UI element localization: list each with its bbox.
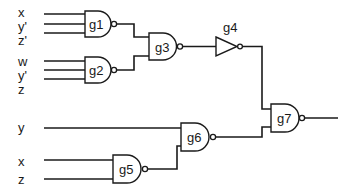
- inversion-bubble-g1: [111, 21, 116, 26]
- wire-g4-g7: [242, 47, 271, 110]
- gate-label-g3: g3: [155, 40, 169, 55]
- input-label-z-prime: z': [18, 33, 27, 48]
- input-label-y: y: [18, 120, 25, 135]
- input-label-y-prime1: y': [18, 19, 27, 34]
- inversion-bubble-g3: [177, 44, 182, 49]
- wire-g2-g3: [117, 56, 149, 70]
- gate-g2: g2: [85, 57, 117, 83]
- gate-g1: g1: [85, 11, 117, 37]
- input-label-x2: x: [18, 154, 25, 169]
- wire-g1-g3: [117, 24, 149, 37]
- gate-label-g4: g4: [223, 20, 237, 35]
- input-label-x1: x: [18, 5, 25, 20]
- gate-g4: g4: [216, 20, 242, 56]
- wire-g5-g6: [148, 146, 181, 169]
- gate-label-g7: g7: [277, 111, 291, 126]
- inversion-bubble-g2: [111, 67, 116, 72]
- input-label-z2: z: [18, 172, 25, 187]
- wire-g6-g7: [216, 127, 271, 137]
- gate-label-g2: g2: [89, 63, 103, 78]
- gate-g5: g5: [113, 155, 148, 183]
- inversion-bubble-g4: [238, 44, 243, 49]
- inversion-bubble-g7: [299, 115, 304, 120]
- inversion-bubble-g5: [142, 166, 147, 171]
- gate-label-g5: g5: [119, 162, 133, 177]
- gate-label-g6: g6: [187, 130, 201, 145]
- input-label-z1: z: [18, 82, 25, 97]
- logic-circuit-diagram: x y' z' w y' z y x z g1 g2 g3 g4: [0, 0, 354, 196]
- gate-g6: g6: [181, 123, 216, 151]
- inversion-bubble-g6: [210, 134, 215, 139]
- input-label-y-prime2: y': [18, 68, 27, 83]
- input-label-w: w: [17, 54, 28, 69]
- gate-g7: g7: [271, 104, 305, 132]
- gate-label-g1: g1: [89, 17, 103, 32]
- not-gate-g4-body: [216, 37, 237, 56]
- gate-g3: g3: [149, 33, 183, 60]
